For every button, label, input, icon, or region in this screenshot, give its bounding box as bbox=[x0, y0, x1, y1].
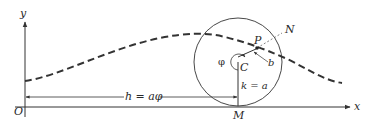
line-c-to-p bbox=[238, 49, 256, 57]
rim-point-label: N bbox=[285, 24, 295, 35]
b-pointer bbox=[254, 52, 268, 62]
x-axis-label: x bbox=[354, 101, 360, 112]
distance-b-label: b bbox=[268, 58, 274, 68]
y-axis-label: y bbox=[20, 8, 26, 19]
trochoid-diagram bbox=[0, 0, 370, 124]
radius-label: k = a bbox=[241, 81, 268, 91]
translation-label: h = aφ bbox=[125, 91, 163, 102]
traced-curve bbox=[25, 34, 342, 83]
origin-label: O bbox=[14, 106, 23, 117]
point-p-label: P bbox=[254, 35, 261, 46]
contact-point-label: M bbox=[233, 110, 244, 121]
center-label: C bbox=[240, 62, 248, 73]
angle-label: φ bbox=[218, 57, 225, 67]
